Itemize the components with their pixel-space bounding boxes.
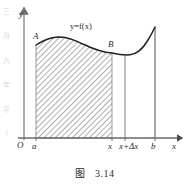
figure-caption: 图3.14 [0,165,189,180]
point-label-B: B [108,40,114,49]
shaded-area [34,30,114,140]
origin-label: O [17,141,24,150]
point-label-A: A [33,32,39,41]
tick-label-a: a [32,142,37,151]
tick-label-x-plus-delta-x: x+Δx [119,142,138,151]
tick-label-b: b [151,142,156,151]
curve-equation-label: y=f(x) [70,22,92,31]
x-axis-label: x [172,142,176,151]
figure-container: 三 月 六 年 平 ] [0,0,189,186]
figure-graphic [0,0,189,186]
tick-label-x: x [108,142,112,151]
caption-prefix: 图 [75,168,86,179]
caption-number: 3.14 [95,168,115,179]
y-axis-label: y [19,10,23,19]
